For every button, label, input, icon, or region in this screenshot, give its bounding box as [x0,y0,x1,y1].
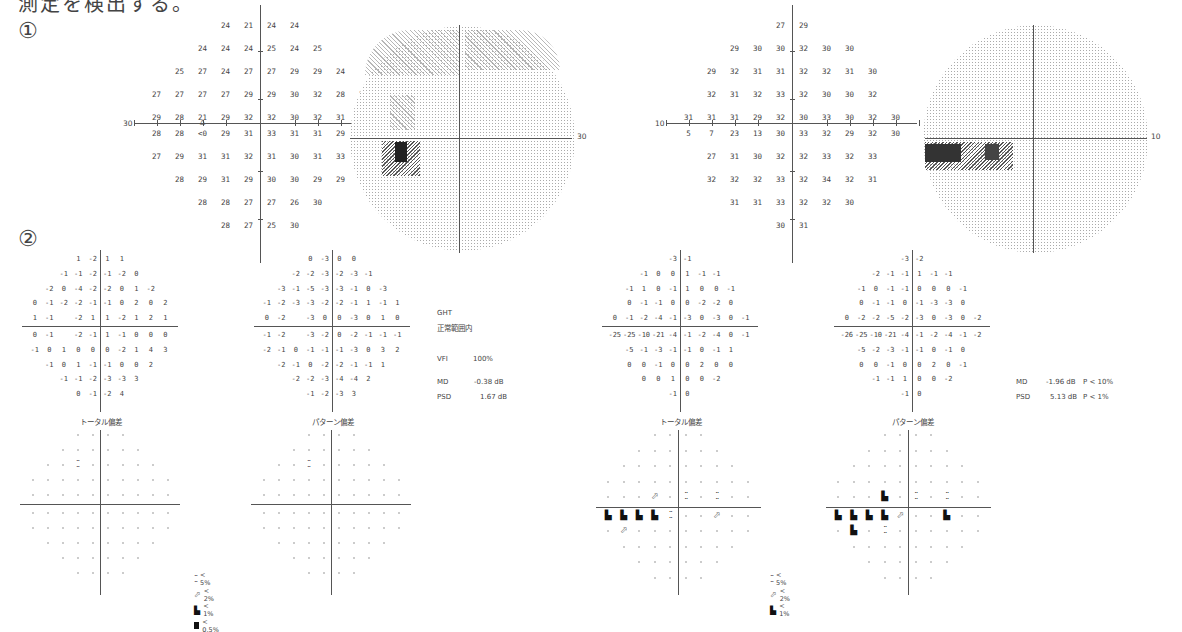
normal-point-dot [92,527,94,529]
threshold-value: 32 [700,175,724,184]
deviation-value: 0 [385,314,409,322]
normal-point-dot [137,449,139,451]
normal-point-dot [77,527,79,529]
normal-point-dot [930,496,932,498]
probability-symbol-2pct: ⬀ [895,511,905,520]
threshold-value: 31 [723,198,747,207]
normal-point-dot [685,546,687,548]
threshold-value: 33 [861,152,885,161]
normal-point-dot [107,434,109,436]
normal-point-dot [638,481,640,483]
normal-point-dot [685,481,687,483]
deviation-value: 0 [951,346,975,354]
normal-point-dot [977,481,979,483]
normal-point-dot [323,494,325,496]
threshold-value: 32 [769,152,793,161]
normal-point-dot [308,527,310,529]
normal-point-dot [368,464,370,466]
normal-point-dot [77,512,79,514]
normal-point-dot [62,494,64,496]
deviation-value: 2 [139,361,163,369]
normal-point-dot [338,512,340,514]
normal-point-dot [623,496,625,498]
normal-point-dot [32,527,34,529]
normal-point-dot [323,464,325,466]
normal-point-dot [293,479,295,481]
normal-point-dot [368,449,370,451]
threshold-value: 28 [168,113,192,122]
threshold-value: 32 [237,152,261,161]
grayscale-defect-core-2 [985,144,999,160]
normal-point-dot [353,494,355,496]
legend-symbol-2pct: ⬀ [194,590,201,599]
threshold-value: 33 [792,129,816,138]
normal-point-dot [152,527,154,529]
normal-point-dot [308,494,310,496]
deviation-value: 0 [719,299,743,307]
threshold-value: 25 [260,44,284,53]
deviation-value: 2 [153,299,177,307]
normal-point-dot [32,494,34,496]
normal-point-dot [700,515,702,517]
plot-caption: トータル偏差 [80,416,122,427]
threshold-value: 31 [700,113,724,122]
normal-point-dot [122,512,124,514]
normal-point-dot [700,561,702,563]
threshold-value: 27 [260,67,284,76]
normal-point-dot [899,434,901,436]
horizontal-axis [251,504,411,505]
left-total-deviation-plot: 1-211-1-1-2-1-20-20-4-2-201-20-1-2-2-1-1… [0,250,200,430]
axis-tick [258,99,263,100]
md-p-value: P < 10% [1083,378,1113,386]
threshold-value: 28 [214,221,238,230]
normal-point-dot [930,481,932,483]
left-threshold-plot: 3024212424242424252425252724272729292427… [80,5,340,265]
psd-value: 5.13 dB [1050,393,1077,401]
legend-label: < 1% [203,602,213,618]
normal-point-dot [654,465,656,467]
normal-point-dot [383,494,385,496]
normal-point-dot [383,542,385,544]
normal-point-dot [654,561,656,563]
threshold-value: 31 [260,152,284,161]
threshold-value: 29 [792,21,816,30]
legend-label: < 5% [776,571,786,587]
vertical-axis [908,430,909,595]
legend-symbol-1pct: ▙ [194,606,200,615]
deviation-value: 0 [124,270,148,278]
normal-point-dot [122,464,124,466]
threshold-value: 32 [792,198,816,207]
normal-point-dot [122,527,124,529]
deviation-value: -2 [907,255,931,263]
normal-point-dot [47,527,49,529]
threshold-value: 30 [769,44,793,53]
normal-point-dot [167,479,169,481]
normal-point-dot [899,561,901,563]
normal-point-dot [899,465,901,467]
normal-point-dot [884,434,886,436]
threshold-value: 24 [283,44,307,53]
normal-point-dot [654,450,656,452]
deviation-value: -1 [951,361,975,369]
normal-point-dot [915,515,917,517]
normal-point-dot [398,512,400,514]
normal-point-dot [899,577,901,579]
normal-point-dot [353,542,355,544]
threshold-value: 30 [283,175,307,184]
normal-point-dot [868,561,870,563]
threshold-value: 27 [769,21,793,30]
normal-point-dot [899,546,901,548]
normal-point-dot [700,481,702,483]
normal-point-dot [122,557,124,559]
axis-tick [790,219,795,220]
grayscale-h-axis [350,138,572,139]
section-2-marker: ② [18,226,38,251]
psd-label: PSD [1016,393,1030,401]
normal-point-dot [837,530,839,532]
probability-symbol-5pct: ⁚⁚ [880,526,890,535]
threshold-value: 30 [769,129,793,138]
normal-point-dot [308,542,310,544]
normal-point-dot [930,546,932,548]
threshold-value: 32 [815,198,839,207]
threshold-value: 32 [861,113,885,122]
